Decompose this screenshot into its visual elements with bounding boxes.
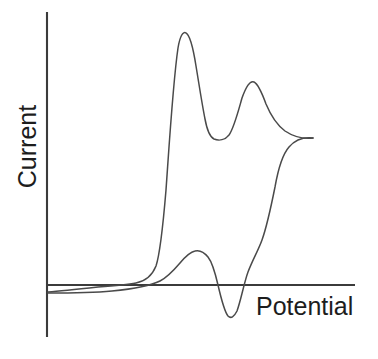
cv-reverse-scan-trace — [48, 138, 313, 318]
x-axis-label: Potential — [256, 292, 353, 321]
cv-forward-scan-trace — [48, 33, 313, 292]
cyclic-voltammogram-figure: Current Potential — [0, 0, 378, 359]
y-axis-label: Current — [13, 99, 42, 195]
